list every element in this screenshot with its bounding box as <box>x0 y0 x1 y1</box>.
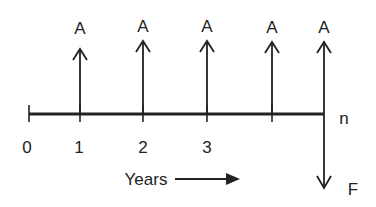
axis-label-years: Years <box>125 170 168 189</box>
payment-label-5: A <box>318 18 330 37</box>
tick-label-3: 3 <box>202 138 211 157</box>
payment-arrows <box>73 41 331 114</box>
up-arrow-icon <box>73 49 87 114</box>
cash-flow-diagram: A A A A A 0 1 2 3 n Years F <box>0 0 376 207</box>
up-arrow-icon <box>265 42 279 114</box>
future-value-label: F <box>348 180 358 199</box>
down-arrow-icon <box>317 114 331 188</box>
up-arrow-icon <box>136 41 150 114</box>
payment-label-4: A <box>266 18 278 37</box>
tick-label-2: 2 <box>138 138 147 157</box>
future-value-arrow <box>317 114 331 188</box>
payment-label-3: A <box>201 17 213 36</box>
up-arrow-icon <box>317 42 331 114</box>
period-end-label: n <box>339 109 348 128</box>
up-arrow-icon <box>200 41 214 114</box>
tick-label-0: 0 <box>22 138 31 157</box>
payment-label-1: A <box>74 19 86 38</box>
payment-label-2: A <box>137 17 149 36</box>
tick-label-1: 1 <box>74 138 83 157</box>
right-arrow-icon <box>175 173 240 185</box>
